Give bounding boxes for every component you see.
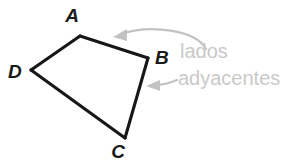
geometry-figure: A B C D lados adyacentes [0,0,301,162]
figure-canvas: A B C D lados adyacentes [0,0,301,162]
quadrilateral-shape [31,36,148,138]
arrow-to-bc-head [146,80,160,91]
edge-BC [125,58,148,138]
annotation-labels: lados adyacentes [178,40,280,89]
annotation-lados: lados [180,40,228,62]
arrow-to-ab-head [113,29,127,41]
vertex-label-B: B [155,47,169,68]
edge-CD [31,70,125,138]
annotation-adyacentes: adyacentes [178,67,280,89]
edge-DA [31,36,80,70]
vertex-label-C: C [111,141,125,162]
vertex-label-D: D [8,61,22,82]
arrow-to-bc [146,80,177,91]
vertex-label-A: A [64,5,79,26]
edge-AB [80,36,148,58]
